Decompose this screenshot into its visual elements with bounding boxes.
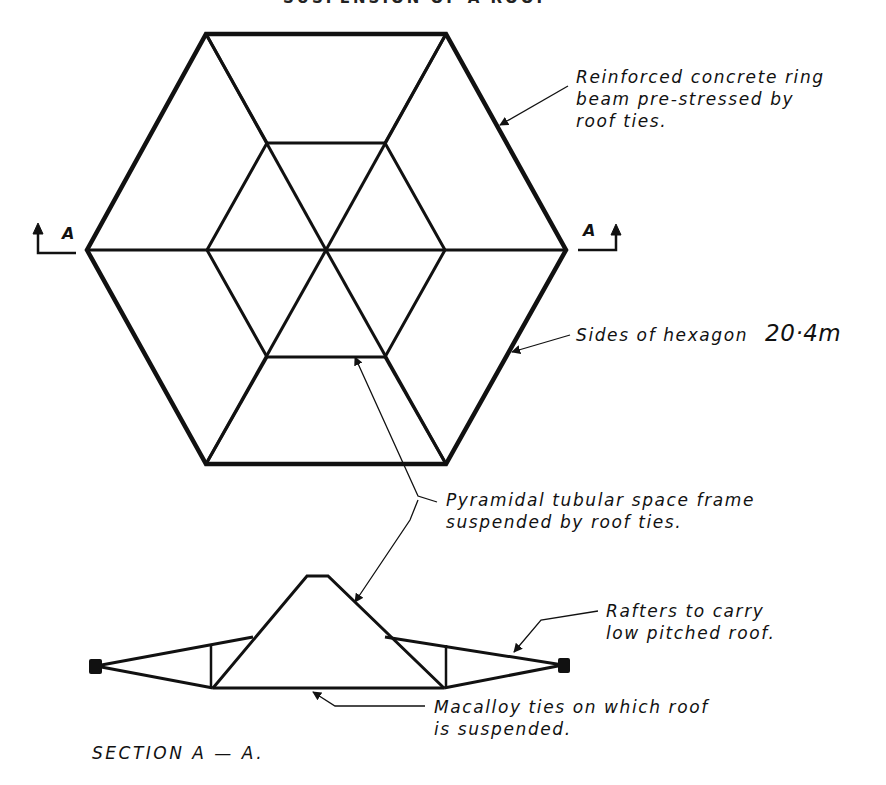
label-line: is suspended.: [434, 718, 709, 740]
label-macalloy-ties: Macalloy ties on which roof is suspended…: [434, 696, 709, 740]
page-heading-partial: SUSPENSION OF A ROOF: [283, 0, 550, 7]
leader-space-frame-section: [355, 500, 418, 602]
label-hexagon-sides-value: 20·4m: [765, 320, 841, 346]
label-line: beam pre-stressed by: [576, 88, 825, 110]
label-line: Macalloy ties on which roof: [434, 696, 709, 718]
label-line: low pitched roof.: [606, 622, 775, 644]
leader-macalloy: [313, 692, 425, 706]
section-label-left: A: [62, 224, 74, 243]
pyramid-space-frame: [213, 576, 444, 688]
label-line: suspended by roof ties.: [446, 511, 755, 533]
label-ring-beam: Reinforced concrete ring beam pre-stress…: [576, 66, 825, 132]
leader-lines: [313, 86, 598, 706]
right-anchor-block: [558, 658, 570, 673]
label-hexagon-sides: Sides of hexagon 20·4m: [576, 322, 841, 346]
leader-rafters: [514, 611, 598, 652]
label-line: Pyramidal tubular space frame: [446, 489, 755, 511]
leader-ring-beam: [500, 86, 568, 125]
section-label-right: A: [583, 221, 595, 240]
leader-hexagon-sides: [512, 335, 570, 352]
plan-ties: [87, 34, 566, 464]
left-anchor-block: [89, 659, 102, 674]
label-line: Rafters to carry: [606, 600, 775, 622]
label-rafters: Rafters to carry low pitched roof.: [606, 600, 775, 644]
section-view: [96, 576, 563, 688]
plan-view: [87, 34, 566, 464]
label-space-frame: Pyramidal tubular space frame suspended …: [446, 489, 755, 533]
label-line: roof ties.: [576, 110, 825, 132]
label-line: Reinforced concrete ring: [576, 66, 825, 88]
label-hexagon-sides-text: Sides of hexagon: [576, 325, 748, 345]
section-title: SECTION A — A.: [92, 742, 264, 764]
